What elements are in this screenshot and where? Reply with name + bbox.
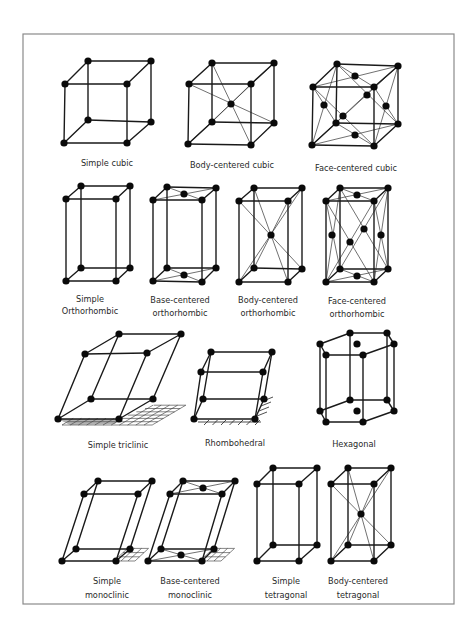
atom bbox=[370, 278, 377, 285]
atom bbox=[360, 225, 367, 232]
atom bbox=[126, 264, 133, 271]
label-base-centered-monoclinic-line2: monoclinic bbox=[168, 590, 212, 600]
atom bbox=[370, 480, 377, 487]
base-centered-orthorhombic-cell bbox=[149, 183, 219, 285]
label-body-centered-tetragonal-line1: Body-centered bbox=[328, 576, 388, 586]
label-simple-tetragonal-line2: tetragonal bbox=[265, 590, 308, 600]
atom bbox=[357, 510, 364, 517]
atom bbox=[147, 118, 154, 125]
atom bbox=[346, 396, 353, 403]
atom bbox=[210, 545, 217, 552]
atom bbox=[328, 231, 335, 238]
atom bbox=[143, 349, 150, 356]
label-body-centered-orthorhombic-line2: orthorhombic bbox=[240, 308, 295, 318]
atom bbox=[253, 557, 260, 564]
label-rhombohedral: Rhombohedral bbox=[205, 438, 265, 448]
atom bbox=[58, 557, 65, 564]
atom bbox=[123, 80, 130, 87]
atom bbox=[190, 415, 197, 422]
atom bbox=[163, 183, 170, 190]
atom bbox=[363, 91, 370, 98]
atom bbox=[157, 545, 164, 552]
atom bbox=[126, 182, 133, 189]
label-hexagonal: Hexagonal bbox=[332, 439, 376, 449]
atom bbox=[198, 278, 205, 285]
atom bbox=[320, 101, 327, 108]
atom bbox=[322, 278, 329, 285]
label-base-centered-monoclinic-line1: Base-centered bbox=[160, 576, 219, 586]
atom bbox=[115, 330, 122, 337]
atom bbox=[250, 264, 257, 271]
atom bbox=[351, 131, 358, 138]
atom bbox=[316, 407, 323, 414]
atom bbox=[353, 407, 360, 414]
face-centered-orthorhombic-cell bbox=[322, 184, 391, 285]
atom bbox=[148, 477, 155, 484]
atom bbox=[383, 396, 390, 403]
atom bbox=[387, 464, 394, 471]
label-simple-orthorhombic-line1: Simple bbox=[76, 294, 104, 304]
atom bbox=[298, 184, 305, 191]
atom bbox=[267, 231, 274, 238]
atom bbox=[344, 464, 351, 471]
atom bbox=[370, 197, 377, 204]
atom bbox=[218, 490, 225, 497]
atom bbox=[370, 557, 377, 564]
atom bbox=[207, 348, 214, 355]
atom bbox=[166, 490, 173, 497]
atom bbox=[333, 60, 340, 67]
label-simple-tetragonal-line1: Simple bbox=[272, 576, 300, 586]
atom bbox=[235, 197, 242, 204]
atom bbox=[259, 368, 266, 375]
atom bbox=[295, 480, 302, 487]
atom bbox=[115, 415, 122, 422]
label-base-centered-orthorhombic-line2: orthorhombic bbox=[152, 308, 207, 318]
atom bbox=[382, 102, 389, 109]
atom bbox=[112, 277, 119, 284]
atom bbox=[81, 350, 88, 357]
atom bbox=[198, 196, 205, 203]
body-centered-orthorhombic-cell bbox=[235, 184, 305, 285]
atom bbox=[394, 120, 401, 127]
atom bbox=[149, 277, 156, 284]
atom bbox=[112, 195, 119, 202]
atom bbox=[260, 395, 267, 402]
atom bbox=[353, 272, 360, 279]
atom bbox=[298, 265, 305, 272]
atom bbox=[387, 541, 394, 548]
atom bbox=[370, 142, 377, 149]
atom bbox=[80, 490, 87, 497]
atom bbox=[313, 541, 320, 548]
atom bbox=[147, 57, 154, 64]
atom bbox=[390, 340, 397, 347]
atom bbox=[72, 545, 79, 552]
atom bbox=[235, 278, 242, 285]
atom bbox=[327, 557, 334, 564]
atom bbox=[84, 57, 91, 64]
atom bbox=[54, 415, 61, 422]
atom bbox=[199, 395, 206, 402]
simple-cubic-cell bbox=[60, 57, 154, 146]
atom bbox=[383, 329, 390, 336]
atom bbox=[231, 477, 238, 484]
atom bbox=[251, 415, 258, 422]
atom bbox=[212, 264, 219, 271]
atom bbox=[247, 80, 254, 87]
label-base-centered-orthorhombic-line1: Base-centered bbox=[150, 295, 209, 305]
atom bbox=[359, 418, 366, 425]
atom bbox=[384, 184, 391, 191]
atom bbox=[370, 83, 377, 90]
atom bbox=[339, 112, 346, 119]
atom bbox=[270, 119, 277, 126]
label-simple-monoclinic-line1: Simple bbox=[93, 576, 121, 586]
atom bbox=[269, 541, 276, 548]
body-centered-cubic-cell bbox=[184, 59, 277, 148]
atom bbox=[185, 80, 192, 87]
atom bbox=[149, 196, 156, 203]
atom bbox=[60, 139, 67, 146]
atom bbox=[184, 140, 191, 147]
atom bbox=[198, 557, 205, 564]
atom bbox=[77, 182, 84, 189]
atom bbox=[208, 118, 215, 125]
simple-monoclinic-cell bbox=[58, 477, 155, 564]
